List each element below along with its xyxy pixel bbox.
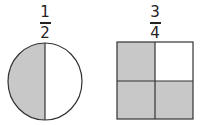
shaded-quarter-top-left (117, 42, 155, 81)
shaded-quarter-bottom-right (155, 81, 193, 119)
circle-half-shaded (8, 43, 82, 120)
shaded-quarter-bottom-left (117, 81, 155, 119)
fraction-diagrams (0, 0, 200, 125)
square-three-quarters-shaded (117, 42, 193, 119)
shaded-half (8, 43, 45, 120)
